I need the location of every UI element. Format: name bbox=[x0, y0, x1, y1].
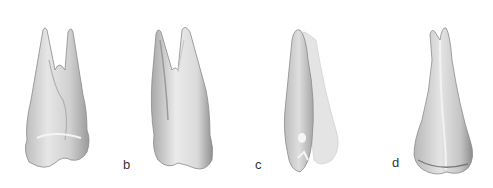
tooth-view-1-image bbox=[15, 0, 115, 188]
tooth-view-4-image bbox=[410, 0, 493, 188]
tooth-view-2-image bbox=[148, 0, 248, 188]
panel-label-d: d bbox=[392, 156, 399, 169]
panel-label-c: c bbox=[255, 158, 262, 171]
tooth-view-3-image bbox=[280, 0, 380, 188]
tooth-figure: b c d bbox=[0, 0, 493, 188]
panel-label-b: b bbox=[123, 158, 130, 171]
